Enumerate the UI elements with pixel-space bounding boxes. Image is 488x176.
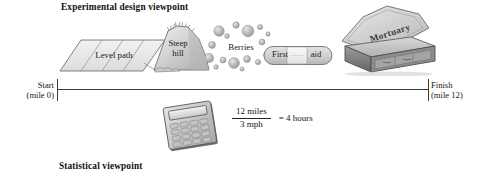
steep-hill-label-line2: hill <box>172 48 183 58</box>
equation-result: = 4 hours <box>279 113 313 123</box>
timeline-finish-label-line2: (mile 12) <box>431 90 487 100</box>
journey-diagram: Experimental design viewpoint Level path <box>0 0 488 176</box>
timeline-finish-label: Finish (mile 12) <box>431 80 487 101</box>
timeline-start-tick <box>57 79 58 101</box>
experimental-design-viewpoint-heading: Experimental design viewpoint <box>61 2 188 12</box>
timeline-finish-tick <box>428 79 429 101</box>
timeline-start-label-line1: Start <box>2 80 54 90</box>
first-aid-label-word2: aid <box>305 49 327 59</box>
first-aid-label-word1: First <box>268 49 292 59</box>
equation-numerator: 12 miles <box>232 106 271 118</box>
timeline-start-label: Start (mile 0) <box>2 80 54 101</box>
steep-hill-label-line1: Steep <box>168 38 187 48</box>
speed-equation: 12 miles 3 mph = 4 hours <box>232 106 313 130</box>
mortuary-shape: Mortuary <box>333 4 443 76</box>
equation-denominator: 3 mph <box>236 119 267 131</box>
first-aid-shape: First aid <box>263 44 333 67</box>
timeline-axis <box>57 89 429 90</box>
calculator-icon <box>160 100 222 152</box>
equation-fraction: 12 miles 3 mph <box>232 106 271 130</box>
timeline-finish-label-line1: Finish <box>431 80 487 90</box>
statistical-viewpoint-heading: Statistical viewpoint <box>59 161 142 171</box>
timeline-start-label-line2: (mile 0) <box>2 90 54 100</box>
berries-label: Berries <box>215 42 267 52</box>
steep-hill-label: Steep hill <box>152 38 204 58</box>
